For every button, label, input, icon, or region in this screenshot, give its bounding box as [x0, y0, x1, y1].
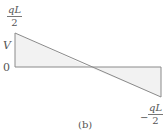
bottom-value-label: qL 2 [148, 103, 163, 126]
figure-caption: (b) [78, 120, 92, 130]
zero-label: 0 [3, 62, 10, 73]
bottom-numerator: qL [148, 103, 163, 114]
top-value-label: qL 2 [7, 5, 22, 28]
top-denominator: 2 [11, 17, 17, 28]
bottom-denominator: 2 [152, 115, 158, 126]
top-numerator: qL [7, 5, 22, 16]
axis-label-v: V [3, 40, 11, 51]
